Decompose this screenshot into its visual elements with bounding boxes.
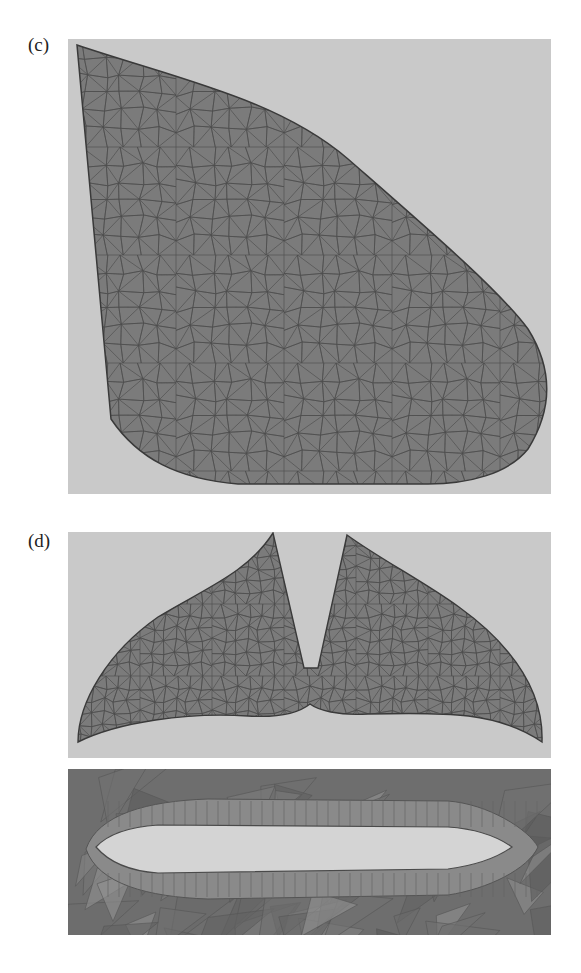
mesh-section-svg [68,769,551,935]
mesh-d-svg [68,532,551,758]
panel-c-mesh-image [68,39,551,494]
panel-d-label: (d) [28,530,50,552]
mesh-c-svg [68,39,551,494]
panel-d-mesh-image [68,532,551,758]
panel-c-label: (c) [28,34,49,56]
airfoil-hole [96,825,512,873]
panel-d-section-image [68,769,551,935]
